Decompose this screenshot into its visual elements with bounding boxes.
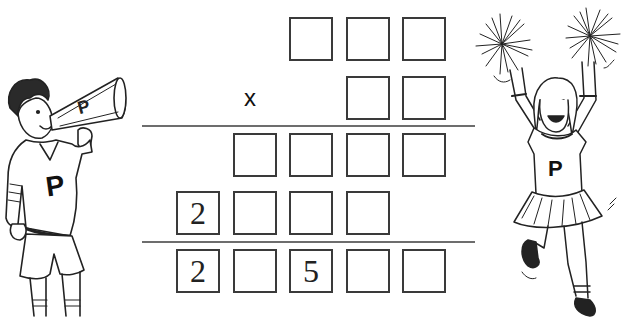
digit-box-result-5[interactable]	[402, 249, 446, 293]
megaphone-cheerleader-illustration: P P	[0, 68, 135, 323]
digit-box-partial1-2[interactable]	[289, 133, 333, 177]
digit-box-multiplier-1[interactable]	[346, 76, 390, 120]
digit-box-multiplicand-1[interactable]	[289, 17, 333, 61]
digit-box-result-3[interactable]: 5	[289, 249, 333, 293]
digit-box-multiplicand-3[interactable]	[402, 17, 446, 61]
pompom-cheerleader-illustration: P	[472, 4, 624, 326]
digit-box-partial1-1[interactable]	[233, 133, 277, 177]
digit-box-result-2[interactable]	[233, 249, 277, 293]
svg-text:P: P	[548, 156, 563, 181]
digit-box-multiplicand-2[interactable]	[346, 17, 390, 61]
rule-line-2	[142, 241, 475, 243]
digit-box-partial1-4[interactable]	[402, 133, 446, 177]
digit-box-partial2-2[interactable]	[233, 191, 277, 235]
digit-box-multiplier-2[interactable]	[402, 76, 446, 120]
rule-line-1	[142, 125, 475, 127]
multiply-operator: x	[244, 84, 256, 112]
digit-box-result-4[interactable]	[346, 249, 390, 293]
digit-box-partial2-4[interactable]	[346, 191, 390, 235]
digit-box-result-1[interactable]: 2	[176, 249, 220, 293]
digit-box-partial2-3[interactable]	[289, 191, 333, 235]
digit-box-partial2-1[interactable]: 2	[176, 191, 220, 235]
digit-box-partial1-3[interactable]	[346, 133, 390, 177]
